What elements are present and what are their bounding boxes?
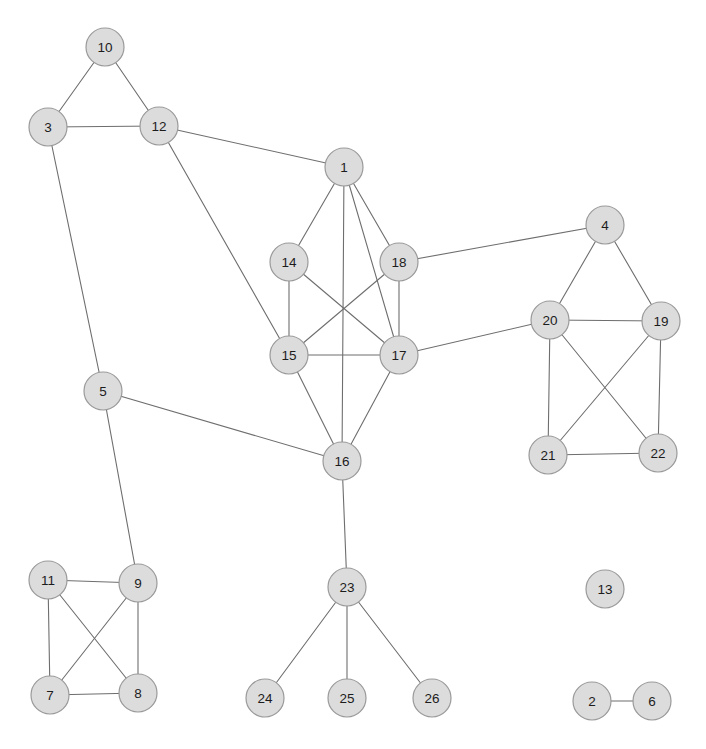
node-circle-25[interactable]: [328, 679, 366, 717]
graph-node-25[interactable]: 25: [328, 679, 366, 717]
node-circle-3[interactable]: [29, 108, 67, 146]
graph-edge-12-15: [159, 126, 289, 355]
graph-edge-23-24: [265, 587, 347, 698]
node-circle-21[interactable]: [529, 436, 567, 474]
node-circle-16[interactable]: [323, 442, 361, 480]
node-circle-23[interactable]: [328, 568, 366, 606]
graph-node-11[interactable]: 11: [29, 561, 67, 599]
graph-node-17[interactable]: 17: [380, 336, 418, 374]
node-layer: 1234567891011121314151617181920212223242…: [29, 28, 680, 720]
graph-edge-12-1: [159, 126, 344, 167]
graph-node-22[interactable]: 22: [639, 434, 677, 472]
graph-node-6[interactable]: 6: [633, 682, 671, 720]
graph-node-14[interactable]: 14: [270, 243, 308, 281]
graph-node-12[interactable]: 12: [140, 107, 178, 145]
node-circle-5[interactable]: [84, 372, 122, 410]
node-circle-4[interactable]: [586, 206, 624, 244]
node-circle-13[interactable]: [586, 570, 624, 608]
node-circle-7[interactable]: [31, 676, 69, 714]
node-circle-18[interactable]: [380, 243, 418, 281]
graph-node-16[interactable]: 16: [323, 442, 361, 480]
node-circle-17[interactable]: [380, 336, 418, 374]
node-circle-26[interactable]: [413, 679, 451, 717]
node-circle-8[interactable]: [119, 674, 157, 712]
graph-node-13[interactable]: 13: [586, 570, 624, 608]
graph-canvas: 1234567891011121314151617181920212223242…: [0, 0, 706, 749]
graph-node-24[interactable]: 24: [246, 679, 284, 717]
graph-node-8[interactable]: 8: [119, 674, 157, 712]
node-circle-22[interactable]: [639, 434, 677, 472]
graph-node-23[interactable]: 23: [328, 568, 366, 606]
graph-node-5[interactable]: 5: [84, 372, 122, 410]
graph-edge-20-21: [548, 320, 550, 455]
graph-node-21[interactable]: 21: [529, 436, 567, 474]
graph-node-2[interactable]: 2: [573, 682, 611, 720]
node-circle-15[interactable]: [270, 336, 308, 374]
graph-edge-19-21: [548, 321, 661, 455]
graph-node-4[interactable]: 4: [586, 206, 624, 244]
node-circle-1[interactable]: [325, 148, 363, 186]
graph-edge-19-22: [658, 321, 661, 453]
graph-edge-5-16: [103, 391, 342, 461]
node-circle-9[interactable]: [119, 564, 157, 602]
graph-edge-5-9: [103, 391, 138, 583]
graph-edge-1-16: [342, 167, 344, 461]
node-circle-24[interactable]: [246, 679, 284, 717]
graph-node-26[interactable]: 26: [413, 679, 451, 717]
node-circle-2[interactable]: [573, 682, 611, 720]
node-circle-14[interactable]: [270, 243, 308, 281]
graph-node-7[interactable]: 7: [31, 676, 69, 714]
graph-node-20[interactable]: 20: [531, 301, 569, 339]
graph-node-3[interactable]: 3: [29, 108, 67, 146]
node-circle-10[interactable]: [86, 28, 124, 66]
graph-node-15[interactable]: 15: [270, 336, 308, 374]
graph-node-18[interactable]: 18: [380, 243, 418, 281]
graph-node-1[interactable]: 1: [325, 148, 363, 186]
node-circle-20[interactable]: [531, 301, 569, 339]
node-circle-11[interactable]: [29, 561, 67, 599]
node-circle-6[interactable]: [633, 682, 671, 720]
node-circle-19[interactable]: [642, 302, 680, 340]
graph-edge-23-26: [347, 587, 432, 698]
graph-edge-18-4: [399, 225, 605, 262]
node-circle-12[interactable]: [140, 107, 178, 145]
network-graph-svg: 1234567891011121314151617181920212223242…: [0, 0, 706, 749]
graph-edge-17-20: [399, 320, 550, 355]
graph-edge-3-5: [48, 127, 103, 391]
graph-node-9[interactable]: 9: [119, 564, 157, 602]
graph-node-10[interactable]: 10: [86, 28, 124, 66]
graph-node-19[interactable]: 19: [642, 302, 680, 340]
